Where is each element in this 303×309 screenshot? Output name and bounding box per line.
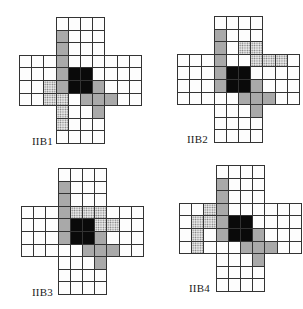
grid-cell [252, 215, 265, 229]
grid-cell [189, 66, 202, 80]
grid-cell [56, 130, 69, 144]
grid-cell-gray [216, 228, 229, 242]
grid-cell [226, 92, 239, 106]
grid-cell [252, 165, 265, 179]
grid-cell [117, 55, 130, 69]
grid-cell-gray [252, 253, 265, 267]
grid-cell [228, 203, 241, 217]
grid-cell [70, 168, 83, 182]
grid-cell-dotted [191, 215, 204, 229]
grid-cell-dotted [250, 41, 263, 55]
grid-cell-dotted [43, 80, 56, 94]
grid-cell [252, 203, 265, 217]
grid-cell [45, 244, 58, 258]
grid-cell [70, 281, 83, 295]
grid-cell [45, 206, 58, 220]
grid-cell-gray [214, 54, 227, 68]
grid-cell-gray [214, 29, 227, 43]
grid-cell [201, 66, 214, 80]
grid-cell [31, 55, 44, 69]
grid-cell [287, 79, 300, 93]
grid-cell [129, 80, 142, 94]
grid-cell [228, 266, 241, 280]
grid-cell [216, 278, 229, 292]
grid-cell-dotted [70, 206, 83, 220]
grid-cell [262, 66, 275, 80]
grid-cell-dotted [94, 218, 107, 232]
grid-cell [131, 231, 144, 245]
panel-label-iib3: IIB3 [32, 286, 53, 298]
grid-cell [92, 42, 105, 56]
grid-cell [92, 55, 105, 69]
grid-cell [287, 66, 300, 80]
grid-cell [250, 29, 263, 43]
grid-cell [289, 228, 302, 242]
grid-cell-dotted [203, 203, 216, 217]
grid-cell [264, 215, 277, 229]
grid-cell [68, 30, 81, 44]
grid-cell [214, 16, 227, 30]
grid-cell [252, 278, 265, 292]
grid-cell [68, 105, 81, 119]
grid-cell [214, 129, 227, 143]
grid-cell [228, 241, 241, 255]
grid-cell [68, 42, 81, 56]
grid-cell-black [68, 80, 81, 94]
grid-cell [58, 244, 71, 258]
grid-cell [252, 190, 265, 204]
grid-cell [45, 218, 58, 232]
grid-cell [264, 203, 277, 217]
grid-cell [131, 218, 144, 232]
panel-label-iib2: IIB2 [187, 133, 208, 145]
grid-cell-gray [252, 228, 265, 242]
grid-cell [117, 67, 130, 81]
grid-cell-black [226, 66, 239, 80]
grid-cell [104, 80, 117, 94]
grid-cell [94, 181, 107, 195]
grid-cell-dotted [275, 54, 288, 68]
grid-cell-gray [250, 92, 263, 106]
grid-cell [214, 104, 227, 118]
grid-cell-gray [250, 104, 263, 118]
grid-cell [228, 165, 241, 179]
grid-cell [68, 130, 81, 144]
grid-cell [58, 168, 71, 182]
grid-cell [214, 117, 227, 131]
grid-cell [201, 79, 214, 93]
panel-label-iib1: IIB1 [32, 135, 53, 147]
grid-cell [119, 231, 132, 245]
grid-cell [226, 54, 239, 68]
grid-cell-gray [216, 190, 229, 204]
grid-cell [277, 203, 290, 217]
grid-cell [275, 79, 288, 93]
grid-cell-gray [216, 178, 229, 192]
grid-cell [33, 231, 46, 245]
grid-cell-dotted [203, 215, 216, 229]
grid-cell [226, 104, 239, 118]
grid-cell [277, 241, 290, 255]
grid-cell [226, 16, 239, 30]
grid-cell [191, 203, 204, 217]
grid-cell [119, 206, 132, 220]
grid-cell [250, 66, 263, 80]
grid-cell [262, 79, 275, 93]
grid-cell-black [68, 67, 81, 81]
grid-cell [228, 253, 241, 267]
grid-cell [226, 29, 239, 43]
grid-cell [252, 178, 265, 192]
grid-cell [68, 55, 81, 69]
grid-cell [131, 206, 144, 220]
grid-cell-gray [92, 93, 105, 107]
grid-cell [129, 93, 142, 107]
grid-cell [226, 117, 239, 131]
grid-cell [43, 67, 56, 81]
grid-cell [117, 80, 130, 94]
grid-cell-gray [264, 241, 277, 255]
grid-cell [119, 218, 132, 232]
grid-cell [228, 190, 241, 204]
grid-cell-gray [92, 80, 105, 94]
grid-cell [289, 241, 302, 255]
grid-cell-black [228, 215, 241, 229]
grid-cell-gray [94, 231, 107, 245]
grid-cell [68, 118, 81, 132]
